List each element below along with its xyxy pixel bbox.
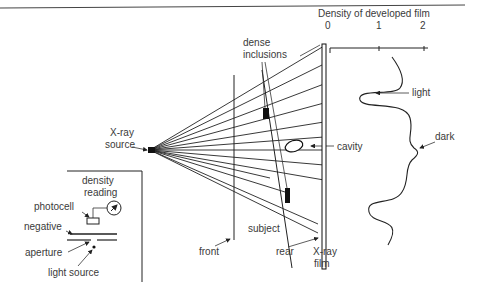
negative-label: negative bbox=[24, 221, 62, 232]
light-source-dot bbox=[92, 245, 95, 248]
dense-label-1: dense bbox=[243, 37, 271, 48]
density-axis bbox=[330, 46, 428, 53]
aperture-label: aperture bbox=[25, 247, 63, 258]
photocell-label: photocell bbox=[34, 201, 74, 212]
cavity-label: cavity bbox=[337, 141, 363, 152]
rear-label: rear bbox=[276, 246, 294, 257]
photocell-icon bbox=[87, 218, 99, 224]
dark-label: dark bbox=[435, 131, 455, 142]
tick-2: 2 bbox=[420, 20, 426, 31]
densitometer-inset: density reading photocell negative apert… bbox=[24, 171, 142, 282]
light-source-label: light source bbox=[48, 267, 100, 278]
xray-beams bbox=[150, 46, 324, 233]
subject-label: subject bbox=[248, 223, 280, 234]
inset-density-label-1: density bbox=[82, 175, 114, 186]
source-label-1: X-ray bbox=[110, 127, 134, 138]
tick-1: 1 bbox=[376, 20, 382, 31]
xray-film bbox=[322, 44, 326, 269]
density-curve bbox=[360, 57, 418, 245]
xray-source-icon bbox=[148, 147, 155, 153]
xray-diagram: Density of developed film 0 1 2 dense in… bbox=[0, 0, 483, 296]
light-label: light bbox=[412, 87, 431, 98]
graph-title: Density of developed film bbox=[318, 8, 430, 19]
film-label-1: X-ray bbox=[313, 246, 337, 257]
dense-inclusion-1 bbox=[263, 108, 269, 119]
front-label: front bbox=[199, 246, 219, 257]
tick-0: 0 bbox=[325, 20, 331, 31]
dense-inclusion-2 bbox=[285, 188, 290, 203]
cavity-icon bbox=[284, 138, 305, 154]
source-label-2: source bbox=[105, 139, 135, 150]
inset-density-label-2: reading bbox=[84, 187, 117, 198]
film-label-2: film bbox=[314, 258, 330, 269]
dense-label-2: inclusions bbox=[243, 49, 287, 60]
subject-rear-plane bbox=[262, 70, 292, 268]
